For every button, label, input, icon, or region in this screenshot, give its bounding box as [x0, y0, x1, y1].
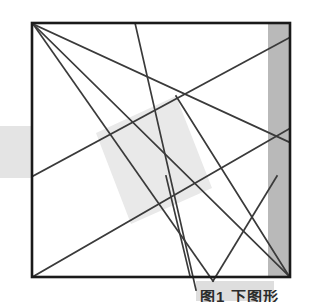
short-stub-right-down-left: [213, 176, 277, 281]
center-tilted-shaded-square: [96, 96, 212, 224]
figure-caption-fragment: 图1 下图形: [200, 290, 318, 302]
diagonal-tl-to-br: [33, 24, 289, 276]
right-vertical-gray-band: [268, 24, 289, 276]
left-edge-gray-patch: [0, 126, 33, 178]
